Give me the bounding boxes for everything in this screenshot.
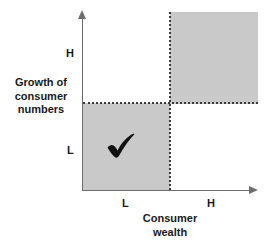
y-axis-arrow-icon [78,10,86,19]
y-axis-title: Growth of consumer numbers [8,76,74,117]
x-axis-title-line-2: wealth [124,226,216,240]
y-axis-title-line-3: numbers [8,103,74,117]
x-axis-arrow-icon [249,186,258,194]
y-axis-line [82,18,83,190]
x-axis-title-line-1: Consumer [124,212,216,226]
check-icon [104,131,138,161]
quadrant-high-growth-high-wealth [170,12,258,104]
consumer-matrix-figure: H L L H Growth of consumer numbers Consu… [0,0,270,244]
y-axis-title-line-1: Growth of [8,76,74,90]
y-axis-title-line-2: consumer [8,90,74,104]
x-axis-line [82,190,250,191]
x-axis-tick-high: H [207,198,215,209]
x-axis-tick-low: L [122,198,129,209]
x-axis-title: Consumer wealth [124,212,216,239]
vertical-divider-line [169,12,171,190]
y-axis-tick-low: L [67,145,74,156]
y-axis-tick-high: H [66,48,74,59]
